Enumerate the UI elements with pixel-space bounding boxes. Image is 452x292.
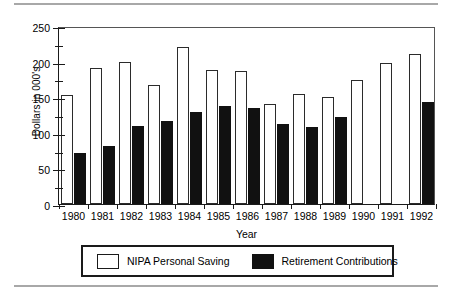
chart-legend: NIPA Personal Saving Retirement Contribu… [81,245,394,277]
bar-1985-retirement-contributions [219,106,231,204]
y-axis-tick-label: 150 [32,93,50,105]
x-axis-tick-label: 1983 [149,210,172,222]
x-axis-tick-label: 1985 [207,210,230,222]
x-axis-tick [146,204,147,209]
open-square-swatch [97,254,119,269]
x-axis-title: Year [58,228,435,240]
bar-1983-retirement-contributions [161,121,173,204]
y-axis-tick-label: 50 [38,164,50,176]
bar-1988-nipa-personal-saving [293,94,305,204]
bar-1981-nipa-personal-saving [90,68,102,204]
y-axis-minor-tick [55,46,63,47]
bar-1980-retirement-contributions [74,153,86,204]
x-axis-tick-label: 1991 [381,210,404,222]
legend-entry-nipa-personal-saving: NIPA Personal Saving [97,254,230,269]
bar-1986-retirement-contributions [248,108,260,204]
filled-square-swatch [252,254,274,269]
y-axis-tick-label: 0 [44,200,50,212]
bar-1987-nipa-personal-saving [264,104,276,204]
x-axis-tick [349,204,350,209]
x-axis-tick-label: 1982 [120,210,143,222]
x-axis-tick-label: 1989 [323,210,346,222]
top-divider-rule [14,3,438,5]
x-axis-tick-label: 1984 [178,210,201,222]
bar-1989-retirement-contributions [335,117,347,204]
y-axis-tick-label: 250 [32,22,50,34]
bar-1986-nipa-personal-saving [235,71,247,204]
bar-1981-retirement-contributions [103,146,115,204]
y-axis-tick [53,135,65,136]
x-axis-tick [88,204,89,209]
bars-layer [59,28,434,204]
bar-1983-nipa-personal-saving [148,85,160,204]
bar-1991-nipa-personal-saving [380,63,392,204]
x-axis-tick [175,204,176,209]
plot-area: 0501001502002501980198119821983198419851… [58,27,435,205]
bar-1989-nipa-personal-saving [322,97,334,205]
x-axis-tick-label: 1986 [236,210,259,222]
bar-1984-retirement-contributions [190,112,202,204]
y-axis-tick [53,64,65,65]
x-axis-tick [204,204,205,209]
bottom-divider-rule [14,285,438,287]
bar-1992-nipa-personal-saving [409,54,421,204]
x-axis-tick [436,204,437,209]
y-axis-tick [53,99,65,100]
y-axis-tick-label: 100 [32,129,50,141]
x-axis-tick [233,204,234,209]
bar-1984-nipa-personal-saving [177,47,189,204]
x-axis-tick-label: 1992 [410,210,433,222]
y-axis-tick-label: 200 [32,58,50,70]
bar-1990-nipa-personal-saving [351,80,363,204]
x-axis-tick [59,204,60,209]
legend-label-nipa-personal-saving: NIPA Personal Saving [127,255,230,267]
bar-1982-nipa-personal-saving [119,62,131,204]
bar-1987-retirement-contributions [277,124,289,204]
x-axis-tick [117,204,118,209]
x-axis-tick [320,204,321,209]
x-axis-tick-label: 1981 [91,210,114,222]
legend-entry-retirement-contributions: Retirement Contributions [252,254,398,269]
x-axis-tick [407,204,408,209]
x-axis-tick [378,204,379,209]
bar-1992-retirement-contributions [422,102,434,204]
y-axis-minor-tick [55,153,63,154]
legend-label-retirement-contributions: Retirement Contributions [282,255,398,267]
bar-chart-figure: Dollars in 000's 05010015020025019801981… [0,0,452,292]
x-axis-tick-label: 1990 [352,210,375,222]
x-axis-tick-label: 1980 [62,210,85,222]
bar-1988-retirement-contributions [306,127,318,204]
bar-1985-nipa-personal-saving [206,70,218,204]
y-axis-tick [53,170,65,171]
y-axis-minor-tick [55,188,63,189]
y-axis-minor-tick [55,81,63,82]
bar-1982-retirement-contributions [132,126,144,204]
y-axis-tick [53,28,65,29]
x-axis-tick [291,204,292,209]
x-axis-tick-label: 1988 [294,210,317,222]
y-axis-minor-tick [55,117,63,118]
x-axis-tick [262,204,263,209]
x-axis-tick-label: 1987 [265,210,288,222]
